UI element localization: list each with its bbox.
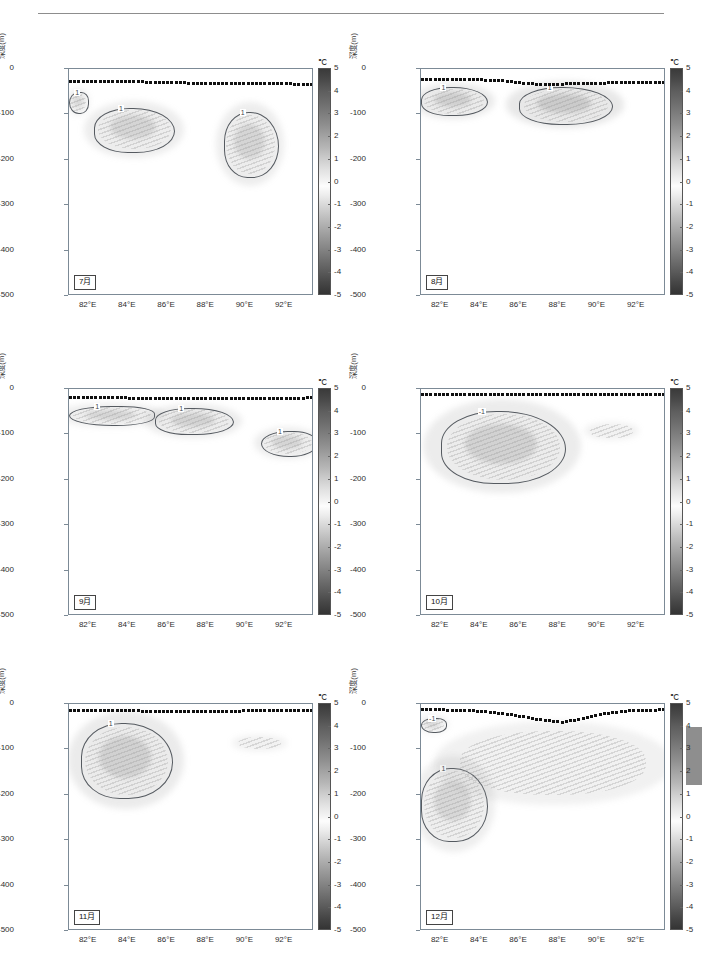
y-axis-label: 深度(m)	[0, 621, 6, 741]
colorbar-unit-label: ℃	[670, 693, 679, 702]
chart-panel-9月: 深度(m)0-100-200-300-400-50082°E84°E86°E88…	[0, 342, 330, 634]
y-tick-label: 0	[326, 384, 366, 392]
colorbar-tick-mark	[680, 227, 683, 228]
y-tick-label: -100	[0, 109, 14, 117]
colorbar-tick-label: 2	[334, 132, 338, 140]
colorbar-tick-label: -2	[334, 223, 341, 231]
colorbar-tick-mark	[328, 227, 331, 228]
mixed-layer-depth-line	[69, 704, 312, 707]
x-tick-label: 84°E	[107, 621, 147, 629]
colorbar-tick-mark	[680, 547, 683, 548]
x-tick-label: 88°E	[537, 621, 577, 629]
colorbar-tick-mark	[680, 411, 683, 412]
y-tick-label: 0	[0, 64, 14, 72]
diffuse-hatching	[460, 731, 646, 795]
colorbar-tick-label: 0	[686, 813, 690, 821]
colorbar-tick-label: 3	[686, 109, 690, 117]
colorbar-tick-label: 0	[686, 178, 690, 186]
y-tick-label: -200	[0, 475, 14, 483]
y-tick-label: -400	[326, 566, 366, 574]
y-tick-label: -200	[326, 790, 366, 798]
colorbar-tick-label: 4	[686, 87, 690, 95]
y-tick-label: -100	[0, 744, 14, 752]
colorbar-unit-label: ℃	[670, 58, 679, 67]
colorbar-tick-mark	[328, 862, 331, 863]
colorbar-tick-mark	[328, 182, 331, 183]
colorbar-tick-label: -2	[334, 543, 341, 551]
plot-area: -11	[420, 703, 665, 930]
colorbar-tick-mark	[328, 136, 331, 137]
scan-artifact-bar	[686, 727, 702, 785]
colorbar-tick-mark	[680, 748, 683, 749]
x-tick-label: 92°E	[264, 936, 304, 944]
colorbar-tick-mark	[680, 862, 683, 863]
y-tick-mark	[64, 930, 68, 931]
plot-area: -1	[420, 388, 665, 615]
colorbar-tick-mark	[680, 182, 683, 183]
y-tick-label: -400	[326, 246, 366, 254]
x-tick-label: 86°E	[498, 621, 538, 629]
x-tick-label: 92°E	[616, 301, 656, 309]
contour-line	[261, 431, 313, 457]
mixed-layer-depth-line	[69, 389, 312, 392]
x-tick-label: 88°E	[537, 936, 577, 944]
y-axis-label: 深度(m)	[347, 621, 358, 741]
y-tick-label: -100	[326, 429, 366, 437]
colorbar-tick-label: 2	[334, 452, 338, 460]
y-tick-label: -500	[0, 926, 14, 934]
colorbar-tick-label: -3	[686, 566, 693, 574]
contour-line	[155, 408, 233, 435]
chart-panel-7月: 深度(m)0-100-200-300-400-50082°E84°E86°E88…	[0, 22, 330, 314]
y-tick-label: 0	[326, 699, 366, 707]
colorbar-tick-mark	[680, 479, 683, 480]
colorbar-tick-label: -4	[686, 903, 693, 911]
colorbar-unit-label: ℃	[670, 378, 679, 387]
colorbar-tick-label: 4	[334, 87, 338, 95]
x-tick-label: 88°E	[537, 301, 577, 309]
colorbar-tick-mark	[680, 771, 683, 772]
y-tick-label: 0	[326, 64, 366, 72]
y-tick-label: -200	[0, 790, 14, 798]
colorbar-tick-mark	[680, 726, 683, 727]
colorbar-tick-label: -4	[686, 588, 693, 596]
y-tick-label: 0	[0, 384, 14, 392]
x-tick-label: 84°E	[107, 301, 147, 309]
colorbar-tick-label: 0	[686, 498, 690, 506]
x-tick-label: 82°E	[68, 301, 108, 309]
colorbar-tick-mark	[328, 592, 331, 593]
contour-line	[421, 87, 488, 116]
y-tick-label: -300	[326, 835, 366, 843]
x-tick-label: 82°E	[420, 621, 460, 629]
month-label-box: 7月	[74, 275, 96, 290]
colorbar-tick-mark	[680, 204, 683, 205]
colorbar-tick-label: -4	[334, 268, 341, 276]
y-tick-label: -100	[0, 429, 14, 437]
x-tick-label: 90°E	[224, 301, 264, 309]
x-tick-label: 84°E	[459, 936, 499, 944]
y-tick-label: -400	[0, 246, 14, 254]
colorbar-tick-label: 4	[334, 722, 338, 730]
colorbar-tick-mark	[680, 433, 683, 434]
x-tick-label: 90°E	[576, 301, 616, 309]
month-label-box: 10月	[426, 595, 453, 610]
month-label-box: 11月	[74, 910, 100, 925]
x-tick-label: 84°E	[459, 621, 499, 629]
mixed-layer-depth-line	[421, 69, 664, 72]
colorbar-tick-mark	[680, 456, 683, 457]
colorbar-tick-mark	[328, 272, 331, 273]
contour-line	[224, 112, 279, 178]
contour-label: 1	[240, 109, 246, 116]
y-tick-label: -300	[0, 835, 14, 843]
diffuse-hatching	[590, 424, 633, 438]
plot-area: 11	[420, 68, 665, 295]
x-tick-label: 88°E	[185, 301, 225, 309]
contour-line	[94, 108, 174, 153]
colorbar-tick-mark	[328, 817, 331, 818]
colorbar-tick-mark	[328, 91, 331, 92]
chart-panel-11月: 深度(m)0-100-200-300-400-50082°E84°E86°E88…	[0, 657, 330, 949]
y-tick-label: 0	[0, 699, 14, 707]
contour-label: 1	[277, 428, 283, 435]
chart-panel-10月: 深度(m)0-100-200-300-400-50082°E84°E86°E88…	[352, 342, 682, 634]
x-tick-label: 82°E	[68, 621, 108, 629]
x-tick-label: 90°E	[576, 621, 616, 629]
